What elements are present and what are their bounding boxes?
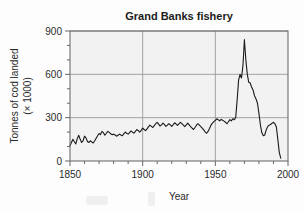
plot-area-background [70,31,288,161]
grand-banks-fishery-line-chart: Grand Banks fishery 0300600900 185019001… [0,0,305,212]
x-axis-label: Year [169,191,190,202]
y-tick-label: 0 [56,156,62,167]
x-tick-label: 2000 [277,169,300,180]
scan-artifact-left [86,196,108,205]
scan-artifact-center [148,192,155,206]
x-tick-label: 1850 [59,169,82,180]
y-axis-label-line1: Tonnes of cod landed [9,48,20,143]
x-tick-label: 1950 [204,169,227,180]
y-tick-label: 900 [45,26,62,37]
y-axis-label-line2: (× 1000) [22,77,33,115]
chart-title: Grand Banks fishery [125,10,233,22]
y-tick-label: 300 [45,112,62,123]
y-tick-label: 600 [45,69,62,80]
x-tick-label: 1900 [132,169,155,180]
chart-figure: Grand Banks fishery 0300600900 185019001… [0,0,305,212]
